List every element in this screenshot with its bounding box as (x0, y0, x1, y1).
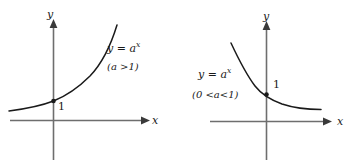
x-axis-label-growth: x (152, 115, 158, 126)
x-axis-decay (210, 118, 332, 126)
equation-exponent-growth: x (136, 40, 140, 49)
decay-plot-svg (178, 0, 357, 166)
x-axis-label-decay: x (337, 116, 343, 127)
growth-curve (9, 25, 117, 111)
y-axis-growth (50, 19, 58, 160)
growth-plot-svg (0, 0, 178, 166)
exponential-graphs-figure: y x 1 y = ax (a >1) y x 1 y = ax (0, 0, 357, 166)
decay-curve (231, 43, 321, 110)
intercept-label-decay: 1 (273, 79, 280, 90)
intercept-dot-growth (51, 99, 56, 104)
intercept-dot-decay (264, 92, 269, 97)
panel-growth: y x 1 y = ax (a >1) (0, 0, 178, 166)
equation-base-growth: y = a (107, 42, 136, 55)
equation-label-decay: y = ax (198, 69, 231, 80)
equation-base-decay: y = a (198, 68, 227, 81)
equation-label-growth: y = ax (107, 43, 140, 54)
condition-label-decay: (0 <a<1) (192, 90, 238, 100)
x-axis-growth (10, 117, 150, 125)
intercept-label-growth: 1 (58, 101, 65, 112)
equation-exponent-decay: x (227, 66, 231, 75)
y-axis-label-growth: y (47, 9, 53, 20)
panel-decay: y x 1 y = ax (0 <a<1) (178, 0, 357, 166)
condition-label-growth: (a >1) (107, 62, 139, 72)
y-axis-decay (263, 21, 271, 160)
y-axis-label-decay: y (263, 11, 269, 22)
